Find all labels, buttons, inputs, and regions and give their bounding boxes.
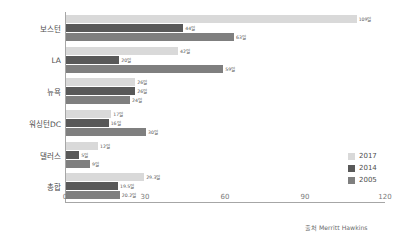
- bar-2017: [66, 173, 144, 181]
- bar-2014: [66, 24, 183, 32]
- x-tick-label: 0: [63, 193, 67, 201]
- bar-value-label: 5일: [79, 152, 88, 158]
- x-tick-label: 30: [141, 193, 150, 201]
- bar-value-label: 17일: [111, 111, 123, 117]
- bar-2017: [66, 15, 357, 23]
- bar-row: 26일: [66, 87, 385, 95]
- bar-value-label: 44일: [183, 25, 195, 31]
- bar-2005: [66, 33, 234, 41]
- bar-value-label: 20일: [119, 57, 131, 63]
- bar-group: LA42일20일59일: [66, 47, 385, 73]
- x-axis-line: [65, 202, 385, 203]
- bar-2014: [66, 87, 135, 95]
- bar-2005: [66, 65, 223, 73]
- bar-row: 44일: [66, 24, 385, 32]
- category-label: 총합: [47, 181, 61, 192]
- legend-label: 2005: [359, 177, 377, 184]
- x-tick-label: 90: [301, 193, 310, 201]
- legend-item-2005[interactable]: 2005: [348, 176, 377, 184]
- bar-2014: [66, 119, 109, 127]
- x-tick-label: 60: [221, 193, 230, 201]
- bar-2014: [66, 151, 79, 159]
- legend-swatch-icon: [348, 165, 355, 172]
- bar-row: 17일: [66, 110, 385, 118]
- bar-2017: [66, 78, 135, 86]
- bar-value-label: 30일: [146, 129, 158, 135]
- bar-2005: [66, 191, 120, 199]
- bar-value-label: 12일: [98, 143, 110, 149]
- bar-value-label: 109일: [357, 16, 372, 22]
- legend-label: 2014: [359, 165, 377, 172]
- bar-2005: [66, 96, 130, 104]
- category-label: 뉴욕: [47, 86, 61, 97]
- bar-value-label: 26일: [135, 88, 147, 94]
- bar-row: 16일: [66, 119, 385, 127]
- bar-value-label: 24일: [130, 97, 142, 103]
- category-label: 워싱턴DC: [29, 117, 61, 128]
- bar-value-label: 42일: [178, 48, 190, 54]
- category-label: 보스턴: [40, 22, 61, 33]
- bar-value-label: 59일: [223, 66, 235, 72]
- bar-row: 12일: [66, 142, 385, 150]
- bar-row: 26일: [66, 78, 385, 86]
- plot-area: 보스턴109일44일63일LA42일20일59일뉴욕26일26일24일워싱턴DC…: [65, 12, 385, 202]
- bar-value-label: 63일: [234, 34, 246, 40]
- x-tick-label: 120: [378, 193, 391, 201]
- bar-value-label: 26일: [135, 79, 147, 85]
- legend-swatch-icon: [348, 177, 355, 184]
- bar-row: 59일: [66, 65, 385, 73]
- bar-group: 댈러스12일5일9일: [66, 142, 385, 168]
- bar-row: 20일: [66, 56, 385, 64]
- bar-row: 19.5일: [66, 182, 385, 190]
- bar-group: 워싱턴DC17일16일30일: [66, 110, 385, 136]
- bar-row: 9일: [66, 160, 385, 168]
- bar-2017: [66, 47, 178, 55]
- bar-2005: [66, 160, 90, 168]
- bar-chart: 보스턴109일44일63일LA42일20일59일뉴욕26일26일24일워싱턴DC…: [0, 0, 409, 247]
- bar-2017: [66, 110, 111, 118]
- bar-value-label: 16일: [109, 120, 121, 126]
- bar-row: 109일: [66, 15, 385, 23]
- bar-value-label: 9일: [90, 161, 99, 167]
- bar-row: 24일: [66, 96, 385, 104]
- bar-2005: [66, 128, 146, 136]
- bar-group: 뉴욕26일26일24일: [66, 78, 385, 104]
- chart-legend: 201720142005: [348, 152, 377, 188]
- legend-item-2014[interactable]: 2014: [348, 164, 377, 172]
- bar-row: 63일: [66, 33, 385, 41]
- source-note: 출처 Merritt Hawkins: [305, 223, 368, 232]
- bar-value-label: 19.5일: [118, 183, 134, 189]
- bar-row: 42일: [66, 47, 385, 55]
- bar-group: 보스턴109일44일63일: [66, 15, 385, 41]
- bar-row: 5일: [66, 151, 385, 159]
- category-label: LA: [52, 55, 61, 64]
- legend-swatch-icon: [348, 153, 355, 160]
- bar-2014: [66, 56, 119, 64]
- bar-row: 30일: [66, 128, 385, 136]
- bar-2017: [66, 142, 98, 150]
- bar-2014: [66, 182, 118, 190]
- category-label: 댈러스: [40, 149, 61, 160]
- bar-value-label: 20.2일: [120, 192, 136, 198]
- bar-value-label: 29.3일: [144, 174, 160, 180]
- legend-label: 2017: [359, 153, 377, 160]
- legend-item-2017[interactable]: 2017: [348, 152, 377, 160]
- bar-row: 29.3일: [66, 173, 385, 181]
